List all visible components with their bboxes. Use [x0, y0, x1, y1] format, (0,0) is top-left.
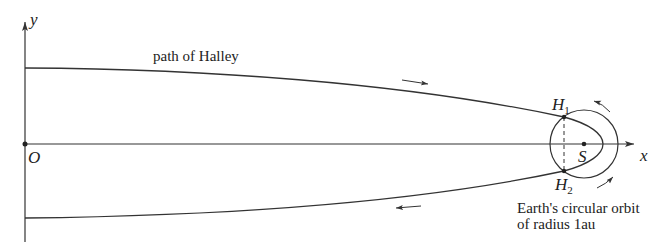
earth-orbit-caption-line2: of radius 1au [517, 216, 596, 232]
h2-point [562, 169, 566, 173]
orbit-arrow-lower [597, 177, 613, 188]
h2-label: H2 [554, 175, 573, 196]
origin-label: O [28, 148, 40, 167]
path-label: path of Halley [153, 48, 239, 64]
earth-orbit-caption-line1: Earth's circular orbit [517, 200, 640, 216]
halley-orbit-diagram: y x O path of Halley H1 H2 S Earth's cir… [0, 0, 659, 249]
x-axis-label: x [639, 146, 648, 165]
direction-arrow-lower [396, 206, 421, 208]
orbit-arrow-upper [594, 101, 610, 112]
origin-dot [23, 142, 28, 147]
direction-arrow-upper [402, 80, 428, 84]
sun-point [582, 142, 587, 147]
halley-path [25, 68, 603, 218]
y-axis: y [25, 10, 38, 242]
y-axis-label: y [28, 10, 38, 29]
h1-label: H1 [551, 95, 570, 116]
sun-label: S [578, 147, 587, 166]
